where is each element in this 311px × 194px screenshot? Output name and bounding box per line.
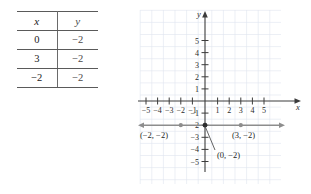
value-table: x y 0 −2 3 −2 −2 −2 [17, 11, 98, 88]
x-axis-label: x [295, 102, 300, 112]
y-tick-label: −3 [190, 133, 199, 142]
table-head: x y [17, 12, 98, 31]
y-axis-arrow-icon [202, 11, 208, 18]
cell-y: −2 [57, 69, 98, 88]
graph-svg: y x −5 −4 −3 −2 −1 1 2 [138, 4, 308, 192]
y-tick-label: −4 [190, 145, 199, 154]
point-label-3-neg2: (3, −2) [232, 130, 255, 140]
point-label-neg2-neg2: (−2, −2) [140, 130, 168, 140]
line-right-arrow-icon [279, 122, 285, 128]
point-marker-0-neg2 [203, 123, 208, 128]
x-tick-label: 5 [262, 106, 266, 115]
y-tick-label: 5 [195, 37, 199, 46]
x-tick-label: −4 [153, 106, 162, 115]
line-left-arrow-icon [138, 122, 144, 128]
table-row: 0 −2 [17, 31, 98, 50]
table-header-row: x y [17, 12, 98, 31]
x-tick-label: −3 [165, 106, 174, 115]
grid-lines [140, 10, 281, 184]
y-tick-label: 3 [195, 61, 199, 70]
xy-table: x y 0 −2 3 −2 −2 −2 [17, 11, 98, 88]
cell-x: −2 [17, 69, 57, 88]
cell-y: −2 [57, 31, 98, 50]
cell-x: 0 [17, 31, 57, 50]
table-body: 0 −2 3 −2 −2 −2 [17, 31, 98, 88]
leader-line-origin-label [206, 128, 215, 151]
column-header-x: x [17, 12, 57, 31]
point-marker-neg2-neg2 [179, 123, 183, 127]
y-tick-label: 2 [195, 73, 199, 82]
table-row: 3 −2 [17, 50, 98, 69]
y-tick-label: −1 [190, 109, 199, 118]
y-axis-label: y [196, 9, 201, 19]
column-header-y: y [57, 12, 98, 31]
y-tick-label: −5 [190, 158, 199, 167]
y-tick-label: 1 [195, 85, 199, 94]
x-tick-label: 2 [227, 106, 231, 115]
x-tick-label: 1 [216, 106, 220, 115]
table-row: −2 −2 [17, 69, 98, 88]
x-tick-label: −5 [142, 106, 151, 115]
x-tick-label: −2 [177, 106, 186, 115]
cell-y: −2 [57, 50, 98, 69]
y-tick-label: 4 [195, 49, 199, 58]
point-marker-3-neg2 [239, 123, 243, 127]
cell-x: 3 [17, 50, 57, 69]
coordinate-graph: y x −5 −4 −3 −2 −1 1 2 [138, 4, 308, 192]
x-tick-label: 3 [239, 106, 243, 115]
x-tick-label: 4 [250, 106, 254, 115]
point-label-0-neg2: (0, −2) [217, 150, 240, 160]
